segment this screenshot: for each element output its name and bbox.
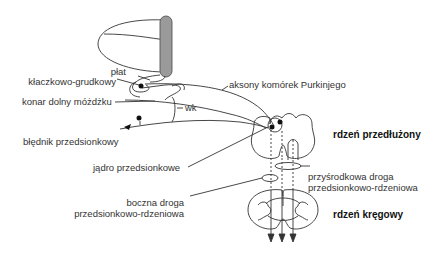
leader-purkinje: [222, 86, 228, 90]
label-medulla: rdzeń przedłużony: [333, 129, 421, 140]
label-medial-tract: przyśrodkowa droga przedsionkowo-rdzenio…: [308, 171, 418, 193]
label-flocculonodular-lobe-2: kłaczkowo-grudkowy: [10, 76, 116, 87]
label-medial-tract-line1: przyśrodkowa droga: [308, 171, 418, 182]
label-purkinje-axons: aksony komórek Purkinjego: [229, 79, 346, 90]
leader-vestibular-nucleus: [188, 127, 268, 167]
label-medial-tract-line2: przedsionkowo-rdzeniowa: [308, 182, 418, 193]
label-wk: wk: [185, 102, 197, 113]
label-lateral-tract-line1: boczna droga: [60, 197, 184, 208]
label-spinal-cord: rdzeń kręgowy: [333, 209, 403, 220]
medial-tract-oval: [275, 163, 301, 170]
vestibular-nerve-path: [120, 120, 268, 129]
leader-inferior-peduncle: [115, 101, 155, 102]
label-lateral-tract-line2: przedsionkowo-rdzeniowa: [60, 208, 184, 219]
cerebellum-outline: [98, 20, 166, 72]
label-vestibular-labyrinth: błędnik przedsionkowy: [23, 136, 119, 147]
medulla-outline: [251, 114, 314, 159]
label-inferior-cerebellar-peduncle: konar dolny móżdżku: [22, 96, 112, 107]
leader-lateral-tract: [190, 178, 262, 196]
purkinje-axon-path: [145, 84, 274, 126]
label-vestibular-nucleus: jądro przedsionkowe: [93, 162, 180, 173]
lateral-tract-oval: [262, 175, 278, 182]
label-lateral-tract: boczna droga przedsionkowo-rdzeniowa: [60, 197, 184, 219]
label-flocculonodular-lobe-line2: kłaczkowo-grudkowy: [10, 76, 116, 87]
spinal-cord-outline: [248, 190, 318, 229]
cerebellum-vermis: [160, 16, 172, 77]
cerebellum-inner-line: [104, 34, 166, 40]
